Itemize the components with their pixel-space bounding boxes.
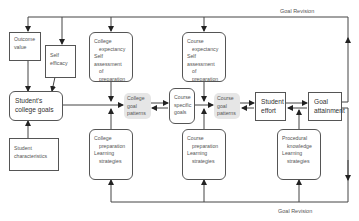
node-text: efficacy [50, 60, 71, 68]
node-text: College [94, 38, 128, 46]
node-text: expectancy [94, 46, 128, 54]
goal-revision-top-label: Goal Revision [280, 8, 314, 14]
node-text: goal [127, 103, 148, 111]
node-text: patterns [217, 110, 237, 118]
node-college-goal-patterns: College goal patterns [124, 93, 151, 119]
node-course-expectancy: Course expectancy Self assessment of pre… [182, 32, 226, 82]
node-text: Learning [187, 150, 221, 158]
node-text: Procedural [282, 135, 316, 143]
node-course-specific-goals: Course specific goals [169, 88, 195, 124]
node-text: College [94, 135, 128, 143]
node-text: Learning [94, 150, 128, 158]
node-text: expectancy [187, 46, 221, 54]
node-student-characteristics: Student characteristics [9, 138, 59, 171]
node-text: Self assessment [94, 53, 128, 68]
node-text: Outcome [14, 36, 36, 44]
node-text: characteristics [14, 153, 54, 161]
node-course-goal-patterns: Course goal patterns [214, 93, 240, 119]
node-college-expectancy: College expectancy Self assessment of pr… [89, 32, 133, 82]
node-text: Course [217, 95, 237, 103]
node-text: Student's [15, 96, 57, 105]
node-text: college goals [15, 105, 57, 114]
node-text: Self [50, 52, 71, 60]
node-text: strategies [282, 158, 316, 166]
node-self-efficacy: Self efficacy [45, 45, 76, 78]
node-student-effort: Student effort [255, 92, 286, 121]
node-text: patterns [127, 110, 148, 118]
node-text: Course [187, 135, 221, 143]
node-text: preparation [187, 143, 221, 151]
node-text: value [14, 44, 36, 52]
node-text: Learning [282, 150, 316, 158]
node-goal-attainment: Goal attainment [308, 92, 342, 121]
node-text: goal [217, 103, 237, 111]
node-text: of preparation [94, 68, 128, 83]
node-text: Course [174, 94, 190, 102]
node-text: Student [14, 145, 54, 153]
node-text: attainment [314, 106, 336, 115]
node-text: specific [174, 102, 190, 110]
node-outcome-value: Outcome value [9, 32, 41, 61]
node-text: Course [187, 38, 221, 46]
node-text: strategies [94, 158, 128, 166]
node-procedural-knowledge: Procedural knowledge Learning strategies [277, 129, 321, 180]
node-text: Student [261, 97, 280, 106]
node-text: effort [261, 106, 280, 115]
node-course-preparation: Course preparation Learning strategies [182, 129, 226, 180]
node-text: knowledge [282, 143, 316, 151]
node-text: Goal [314, 97, 336, 106]
node-students-college-goals: Student's college goals [9, 91, 63, 121]
node-college-preparation: College preparation Learning strategies [89, 129, 133, 180]
node-text: College [127, 95, 148, 103]
goal-revision-bottom-label: Goal Revision [278, 208, 312, 214]
node-text: preparation [94, 143, 128, 151]
node-text: goals [174, 109, 190, 117]
node-text: strategies [187, 158, 221, 166]
node-text: of preparation [187, 68, 221, 83]
node-text: Self assessment [187, 53, 221, 68]
